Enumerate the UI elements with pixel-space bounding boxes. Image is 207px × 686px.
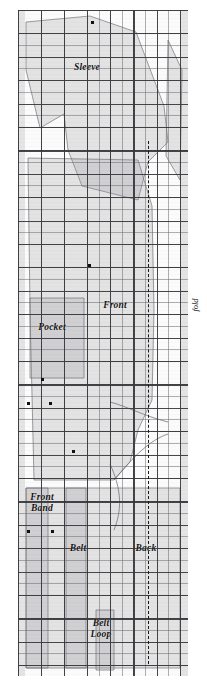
piece-label-back: Back <box>122 543 170 554</box>
notch-dot <box>72 450 75 453</box>
notch-dot <box>91 21 94 24</box>
piece-label-belt-loop: Belt Loop <box>76 618 126 639</box>
notch-dot <box>51 530 54 533</box>
fabric-grid-bold <box>18 10 188 676</box>
cutting-layout-diagram: selvedges fold <box>0 0 207 686</box>
notch-dot <box>27 530 30 533</box>
fold-edge-label: fold <box>190 298 200 311</box>
notch-dot <box>27 402 30 405</box>
notch-dot <box>88 264 91 267</box>
piece-label-front-band: Front Band <box>18 492 68 513</box>
notch-dot <box>49 402 52 405</box>
fold-line-segment <box>148 141 149 262</box>
fold-line-segment <box>148 264 149 463</box>
piece-label-front: Front <box>90 300 140 311</box>
notch-dot <box>41 378 44 381</box>
piece-label-belt: Belt <box>54 543 102 554</box>
fabric-area: Sleeve Front Pocket Front Band Belt Back… <box>18 10 188 676</box>
fold-line-segment <box>148 466 149 664</box>
piece-label-pocket: Pocket <box>25 322 79 333</box>
piece-label-sleeve: Sleeve <box>62 62 112 73</box>
